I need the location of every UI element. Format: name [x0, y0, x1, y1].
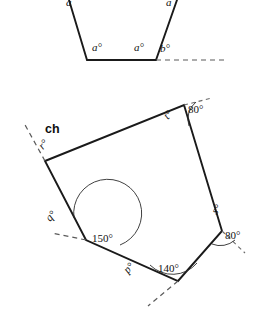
label-angle-140: 140° [158, 262, 179, 274]
label-angle-150: 150° [92, 232, 113, 244]
label-a-top-right: a [166, 0, 172, 8]
annotation-ch: ch [45, 122, 60, 136]
label-b-exterior: b° [160, 42, 171, 54]
label-a-top-left: a [66, 0, 72, 8]
label-a-bottom-right: a° [134, 41, 145, 53]
dashed-ray-p [148, 281, 178, 306]
label-angle-80-right: 80° [225, 229, 240, 241]
label-angle-s: s° [209, 201, 224, 216]
label-angle-80-top: 80° [188, 103, 203, 115]
geometry-figure: a a a° a° b° r° t° 80° s° 80° 140° p° q°… [0, 0, 279, 329]
label-angle-q: q° [43, 208, 59, 224]
dashed-ray-q [52, 233, 86, 240]
label-a-bottom-left: a° [92, 41, 103, 53]
geometry-canvas: a a a° a° b° r° t° 80° s° 80° 140° p° q°… [0, 0, 279, 329]
bottom-pentagon [45, 105, 222, 281]
pentagon-outline [45, 105, 222, 281]
